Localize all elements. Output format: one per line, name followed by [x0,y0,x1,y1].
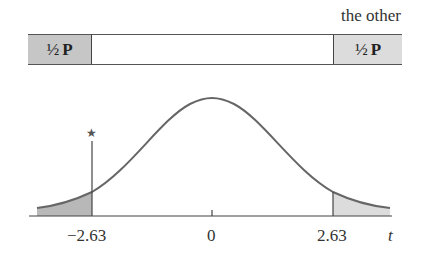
tick-label-pos: 2.63 [317,226,347,246]
t-distribution-plot [0,0,430,254]
tick-label-neg: −2.63 [67,226,106,246]
tick-label-zero: 0 [207,226,216,246]
density-curve [37,98,390,208]
axis-variable-label: t [388,226,393,246]
star-icon: ★ [86,127,97,139]
